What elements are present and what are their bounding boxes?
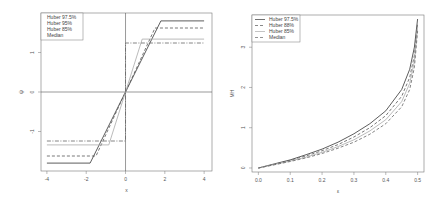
left-chart-huber-psi: -4-2024-101xψHuber 97.5%Huber 95%Huber 8…	[18, 13, 212, 193]
x-axis-label: x	[125, 187, 128, 193]
x-tick-label: 0.5	[414, 177, 421, 183]
x-tick-label: -4	[45, 176, 50, 182]
x-tick-label: 0.0	[255, 177, 262, 183]
y-axis-label: MH	[229, 89, 235, 97]
x-tick-label: 0	[124, 176, 127, 182]
x-tick-label: 2	[163, 176, 166, 182]
y-tick-label: 3	[240, 46, 246, 49]
x-tick-label: 0.3	[350, 177, 357, 183]
y-tick-label: -1	[29, 129, 35, 134]
y-axis-label: ψ	[18, 90, 24, 94]
x-tick-label: 0.2	[319, 177, 326, 183]
legend-label: Median	[47, 32, 64, 38]
legend-label: Median	[269, 34, 286, 40]
x-tick-label: 0.4	[382, 177, 389, 183]
y-tick-label: 0	[240, 166, 246, 169]
series-line	[258, 27, 417, 168]
x-tick-label: -2	[84, 176, 89, 182]
x-axis-label: ε	[337, 188, 340, 194]
y-tick-label: 1	[240, 126, 246, 129]
figure: -4-2024-101xψHuber 97.5%Huber 95%Huber 8…	[0, 0, 438, 206]
y-tick-label: 0	[29, 90, 35, 93]
y-tick-label: 1	[29, 51, 35, 54]
chart-canvas: -4-2024-101xψHuber 97.5%Huber 95%Huber 8…	[0, 0, 438, 206]
x-tick-label: 0.1	[287, 177, 294, 183]
right-chart-mh-curves: 0.00.10.20.30.40.50123εMHHuber 97.5%Hube…	[229, 15, 424, 194]
y-tick-label: 2	[240, 86, 246, 89]
x-tick-label: 4	[203, 176, 206, 182]
